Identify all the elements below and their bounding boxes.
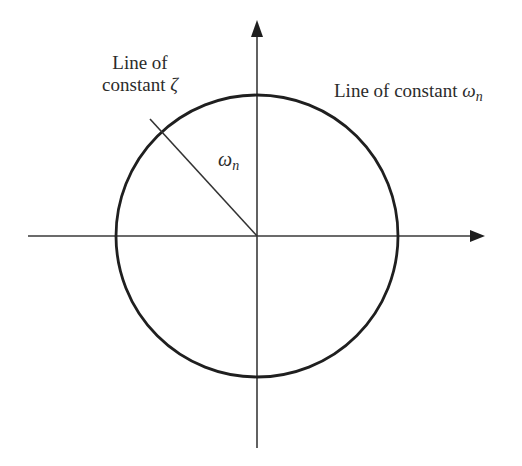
constant-wn-label: Line of constant ωn [334, 80, 483, 102]
constant-wn-label-text: Line of constant [334, 80, 462, 101]
radius-omega-symbol: ω [218, 148, 232, 170]
constant-zeta-label-text: constant [102, 74, 170, 95]
radius-omega-subscript: n [232, 158, 239, 173]
constant-zeta-label-line2: constant ζ [102, 74, 178, 95]
radius-wn-label: ωn [218, 148, 239, 170]
omega-subscript: n [476, 89, 483, 104]
constant-zeta-line [150, 119, 257, 236]
constant-zeta-label-line1: Line of [112, 52, 167, 73]
constant-zeta-label: Line of constant ζ [88, 52, 192, 96]
zeta-symbol: ζ [170, 74, 178, 95]
s-plane-diagram [0, 0, 522, 466]
imaginary-axis-arrowhead-icon [251, 20, 263, 37]
real-axis-arrowhead-icon [470, 230, 485, 242]
omega-symbol: ω [462, 80, 475, 101]
